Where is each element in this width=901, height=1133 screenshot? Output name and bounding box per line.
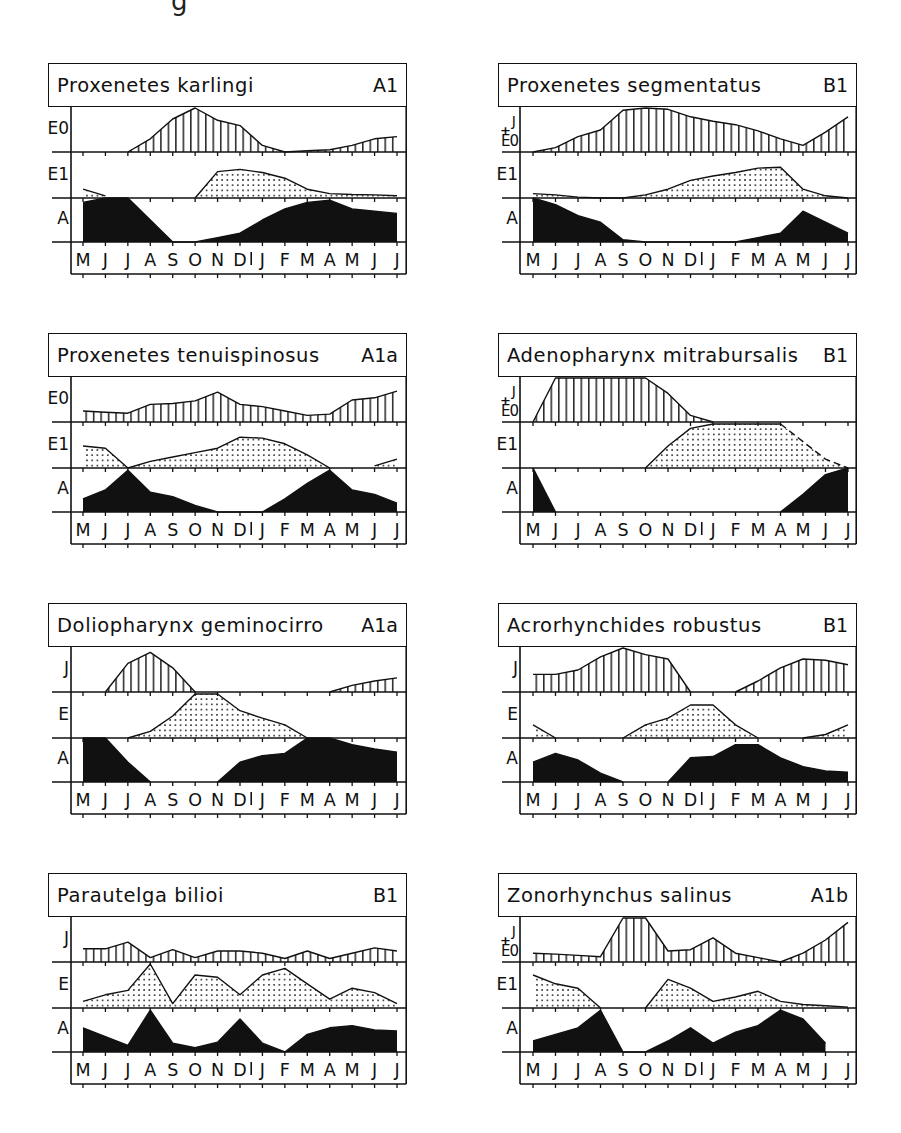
species-panel: Proxenetes karlingiA1E0E1AMJJASONDJFMAMJ… [48,63,407,278]
month-label: F [730,1060,740,1080]
month-label: D [233,790,246,810]
month-label: O [639,1060,653,1080]
month-label: J [553,1060,558,1080]
adult-area [533,753,623,782]
month-label: O [188,250,202,270]
panel-title-box: Zonorhynchus salinusA1b [498,873,857,917]
band-label: J [513,658,518,678]
species-name: Adenopharynx mitrabursalis [507,344,799,367]
month-label: N [211,520,224,540]
month-label: J [823,790,828,810]
month-label: M [345,790,360,810]
month-label: J [845,1060,850,1080]
band-label: J [64,658,69,678]
month-label: J [103,520,108,540]
species-panel: Doliopharynx geminocirroA1aJEAMJJASONDJF… [48,603,407,818]
month-label: A [775,790,787,810]
band-label: E1 [47,434,69,454]
stage-e1-area [83,964,397,1008]
panel-title-box: Proxenetes segmentatusB1 [498,63,857,107]
cropped-caption-fragment: g [171,0,188,16]
month-label: M [795,790,810,810]
adult-area [83,198,397,242]
band-label: A [57,1018,69,1038]
month-label: F [730,520,740,540]
month-label: F [280,790,290,810]
species-panel: Parautelga bilioiB1JEAMJJASONDJFMAMJJ [48,873,407,1088]
month-label: J [394,520,399,540]
month-label: D [684,250,697,270]
month-label: J [553,520,558,540]
stage-e0-area [105,652,195,692]
month-label: J [845,250,850,270]
month-label: M [750,250,765,270]
month-label: O [639,520,653,540]
stage-e1-area [533,975,601,1008]
month-label: J [103,790,108,810]
month-label: O [639,790,653,810]
month-label: F [730,790,740,810]
band-label: E [58,974,69,994]
band-label: A [506,478,518,498]
stage-e0-area [330,678,397,692]
month-label: M [300,790,315,810]
month-label: D [233,1060,246,1080]
month-label: M [795,1060,810,1080]
month-label: A [595,790,607,810]
month-label: J [710,520,715,540]
species-name: Zonorhynchus salinus [507,884,732,907]
month-label: J [845,790,850,810]
species-panel: Adenopharynx mitrabursalisB1J+E0E1AMJJAS… [498,333,857,548]
month-label: J [823,250,828,270]
month-label: N [211,1060,224,1080]
species-code: B1 [823,344,848,366]
month-label: J [372,1060,377,1080]
month-label: M [300,1060,315,1080]
month-label: N [211,250,224,270]
band-label-top: J [512,924,516,938]
band-label-stacked: J+E0 [500,112,518,152]
species-code: A1 [373,74,398,96]
month-label: A [144,790,156,810]
band-label: E1 [496,164,518,184]
month-label: J [260,520,265,540]
month-label: J [710,1060,715,1080]
month-label: M [525,520,540,540]
stage-e1-area [803,725,848,738]
month-label: M [345,520,360,540]
month-label: J [575,1060,580,1080]
month-label: M [525,1060,540,1080]
panel-title-box: Proxenetes karlingiA1 [48,63,407,107]
band-label-bottom: E0 [501,944,518,959]
month-label: M [300,250,315,270]
month-label: J [125,1060,130,1080]
adult-area [83,470,397,512]
month-label: S [617,1060,628,1080]
species-code: A1a [361,614,398,636]
month-label: S [167,790,178,810]
month-label: S [617,250,628,270]
month-label: S [167,250,178,270]
month-label: S [617,520,628,540]
adult-area [781,468,849,512]
month-label: A [775,250,787,270]
month-label: M [795,250,810,270]
adult-area [533,198,848,242]
month-label: A [595,250,607,270]
stage-e1-area [533,167,848,198]
band-label: E [507,704,518,724]
month-label: D [684,1060,697,1080]
month-label: J [823,1060,828,1080]
month-label: J [103,250,108,270]
band-label: A [57,748,69,768]
month-label: J [575,250,580,270]
month-label: J [103,1060,108,1080]
month-label: J [394,250,399,270]
month-label: J [553,250,558,270]
month-label: M [795,520,810,540]
species-panel: Proxenetes segmentatusB1J+E0E1AMJJASONDJ… [498,63,857,278]
month-label: J [823,520,828,540]
stage-e0-area [83,942,397,962]
month-label: M [750,790,765,810]
month-label: M [525,790,540,810]
